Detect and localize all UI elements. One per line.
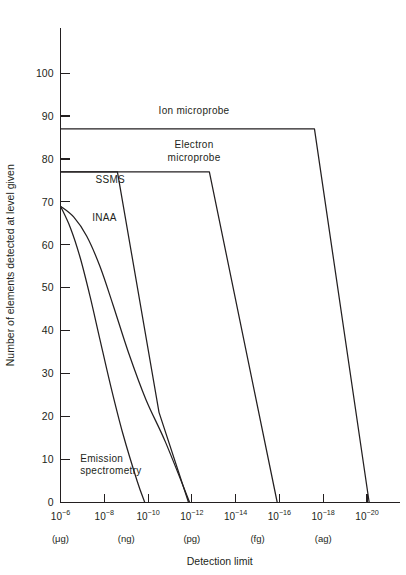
series-label: Ion microprobe	[159, 105, 230, 116]
x-axis-tick-label: 10−18	[312, 508, 335, 522]
x-axis-tick-label: 10−16	[268, 508, 291, 522]
y-axis-title: Number of elements detected at level giv…	[4, 164, 16, 366]
x-axis-unit-label: (ng)	[118, 533, 135, 544]
y-axis-tick-label: 100	[36, 67, 54, 79]
y-axis-tick-label: 60	[42, 239, 54, 251]
chart-series	[61, 129, 370, 503]
y-axis-tick-label: 10	[42, 453, 54, 465]
y-axis-tick-label: 80	[42, 153, 54, 165]
x-axis-tick-label: 10−12	[180, 508, 203, 522]
y-axis-tick-label: 70	[42, 196, 54, 208]
y-axis-tick-label: 20	[42, 410, 54, 422]
x-axis-unit-label: (pg)	[183, 533, 200, 544]
y-axis-tick-label: 50	[42, 281, 54, 293]
y-axis-tick-label: 40	[42, 324, 54, 336]
series-label: Emissionspectrometry	[80, 453, 141, 477]
series-label: SSMS	[96, 174, 126, 185]
series-label: Electronmicroprobe	[168, 139, 221, 163]
y-axis-tick-label: 0	[48, 496, 54, 508]
series-line	[61, 129, 370, 503]
x-axis-title: Detection limit	[187, 555, 253, 567]
chart-figure: 010203040506070809010010−610−810−1010−12…	[0, 0, 406, 575]
y-axis-tick-label: 30	[42, 367, 54, 379]
x-axis-unit-label: (fg)	[250, 533, 264, 544]
x-axis-tick-label: 10−6	[51, 508, 70, 522]
x-axis-unit-label: (μg)	[52, 533, 69, 544]
x-axis-tick-label: 10−20	[355, 508, 378, 522]
x-axis-tick-label: 10−10	[136, 508, 159, 522]
x-axis-tick-label: 10−14	[224, 508, 247, 522]
series-label: INAA	[92, 212, 117, 223]
y-axis-tick-label: 90	[42, 110, 54, 122]
x-axis-unit-label: (ag)	[315, 533, 332, 544]
x-axis-tick-label: 10−8	[95, 508, 114, 522]
chart-svg: 010203040506070809010010−610−810−1010−12…	[0, 0, 406, 575]
